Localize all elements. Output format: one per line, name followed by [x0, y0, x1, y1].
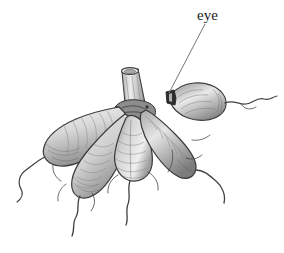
stem-cut-hollow — [124, 69, 135, 73]
detached-tuber-rootlet — [241, 104, 256, 109]
figure-container: eye — [0, 0, 284, 253]
upper-left-tuber-root — [17, 157, 45, 202]
right-tuber-root — [196, 170, 225, 203]
right-tuber-rootlet-3 — [192, 135, 210, 140]
lower-left-tuber-rootlet-2 — [58, 184, 66, 201]
eye-label: eye — [197, 7, 218, 24]
upper-left-tuber-rootlet — [53, 165, 61, 181]
crown-bud-right — [145, 105, 148, 108]
detached-tuber-root — [225, 96, 277, 104]
lower-left-tuber-root — [72, 196, 80, 236]
detached-tuber-group — [166, 83, 277, 121]
eye-highlight — [169, 93, 172, 102]
right-tuber-group — [140, 110, 224, 203]
center-tuber-root — [126, 181, 130, 225]
center-tuber-rootlet-right — [148, 172, 158, 190]
tuber-cluster-illustration — [0, 0, 284, 253]
